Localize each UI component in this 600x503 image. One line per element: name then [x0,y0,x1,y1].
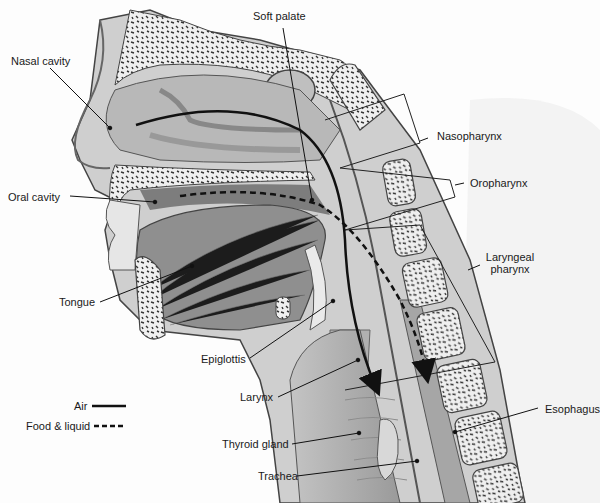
label-larynx: Larynx [240,391,273,403]
label-soft-palate: Soft palate [253,10,306,22]
label-laryngeal-line2: pharynx [482,263,538,275]
label-laryngeal-pharynx: Laryngeal pharynx [482,251,538,275]
label-oral-cavity: Oral cavity [8,191,60,203]
label-thyroid-gland: Thyroid gland [222,438,289,450]
legend-air-label: Air [74,400,87,412]
label-trachea: Trachea [258,470,298,482]
label-esophagus: Esophagus [545,403,600,415]
label-oropharynx: Oropharynx [470,177,527,189]
label-laryngeal-line1: Laryngeal [482,251,538,263]
label-epiglottis: Epiglottis [201,353,246,365]
legend-food-label: Food & liquid [26,420,90,432]
anatomy-diagram: Nasal cavity Soft palate Nasopharynx Ora… [0,0,600,503]
label-nasopharynx: Nasopharynx [437,130,502,142]
label-tongue: Tongue [59,296,95,308]
label-nasal-cavity: Nasal cavity [11,55,70,67]
